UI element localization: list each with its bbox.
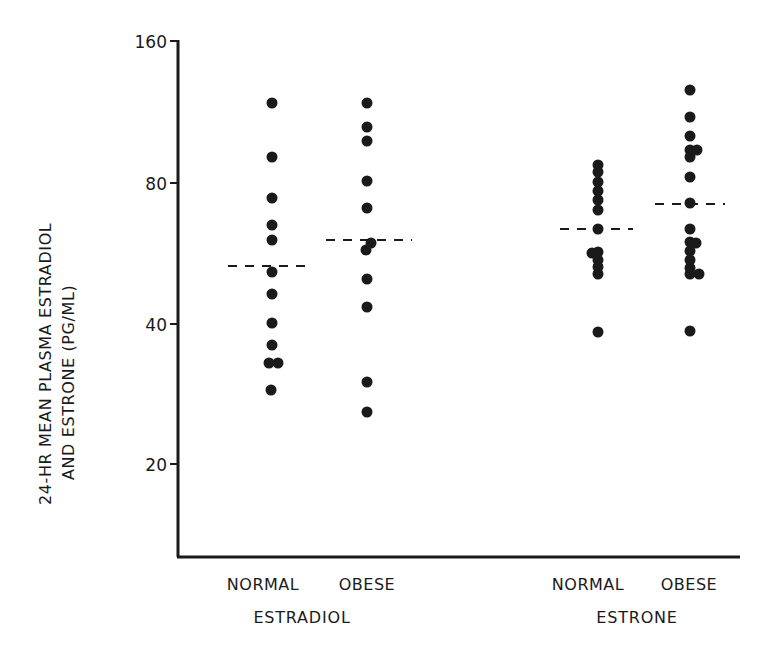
label-estrone-group: ESTRONE [596,608,677,627]
data-point-e2-obese [362,203,373,214]
data-point-e2-normal [267,340,278,351]
tick-label-20: 20 [145,455,167,475]
data-point-e2-normal [267,193,278,204]
data-point-e2-normal [267,98,278,109]
data-point-e2-normal [267,289,278,300]
label-estradiol-obese: OBESE [339,575,395,594]
data-points [264,85,705,418]
data-point-e1-normal [593,167,604,178]
data-point-e1-normal [593,327,604,338]
y-axis-title-line2: AND ESTRONE (PG/ML) [59,285,78,480]
data-point-e1-obese [685,131,696,142]
data-point-e1-obese [685,198,696,209]
data-point-e1-normal [593,195,604,206]
label-estrone-normal: NORMAL [552,575,624,594]
data-point-e1-normal [593,205,604,216]
data-point-e1-obese [685,85,696,96]
data-point-e2-obese [362,302,373,313]
data-point-e1-normal [593,224,604,235]
data-point-e2-normal [267,220,278,231]
y-axis-title: 24-HR MEAN PLASMA ESTRADIOL AND ESTRONE … [36,223,78,505]
data-point-e2-obese [362,136,373,147]
tick-label-80: 80 [145,174,167,194]
data-point-e2-normal [267,152,278,163]
x-category-labels: NORMAL OBESE ESTRADIOL NORMAL OBESE ESTR… [227,575,717,627]
data-point-e1-obese [685,152,696,163]
data-point-e2-normal [273,358,284,369]
y-axis-title-line1: 24-HR MEAN PLASMA ESTRADIOL [36,223,55,505]
data-point-e2-normal [266,385,277,396]
data-point-e1-obese [685,112,696,123]
data-point-e2-obese [361,245,372,256]
tick-label-160: 160 [135,32,167,52]
dot-plot-chart: 24-HR MEAN PLASMA ESTRADIOL AND ESTRONE … [0,0,767,652]
data-point-e2-normal [267,318,278,329]
data-point-e1-obese [685,326,696,337]
label-estradiol-group: ESTRADIOL [253,608,350,627]
data-point-e1-obese [685,172,696,183]
mean-lines [228,204,725,266]
data-point-e2-normal [267,235,278,246]
y-tick-labels: 160 80 40 20 [135,32,167,475]
data-point-e2-normal [267,267,278,278]
label-estradiol-normal: NORMAL [227,575,299,594]
data-point-e2-obese [362,122,373,133]
data-point-e2-obese [362,274,373,285]
data-point-e1-obese [685,224,696,235]
data-point-e2-obese [362,176,373,187]
data-point-e1-normal [593,269,604,280]
label-estrone-obese: OBESE [661,575,717,594]
data-point-e2-obese [362,407,373,418]
data-point-e2-obese [362,98,373,109]
data-point-e2-obese [362,377,373,388]
data-point-e1-obese [694,269,705,280]
tick-label-40: 40 [145,315,167,335]
axes [170,40,740,557]
